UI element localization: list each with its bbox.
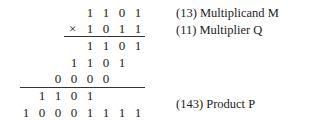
multiplier-digit: 0 bbox=[101, 22, 111, 36]
partial-product-4-digit: 1 bbox=[53, 89, 63, 103]
product-label: (143) Product P bbox=[176, 97, 255, 111]
partial-product-4-digit: 0 bbox=[69, 89, 79, 103]
multiplicand-label: (13) Multiplicand M bbox=[176, 6, 279, 20]
times-symbol: × bbox=[69, 22, 76, 36]
multiplicand-digit: 1 bbox=[133, 6, 143, 20]
product-digit: 0 bbox=[53, 106, 63, 120]
partial-product-2-digit: 1 bbox=[85, 56, 95, 70]
partial-product-3-digit: 0 bbox=[69, 72, 79, 86]
multiplicand-digit: 1 bbox=[85, 6, 95, 20]
multiplier-digit: 1 bbox=[85, 22, 95, 36]
multiplier-digit: 1 bbox=[117, 22, 127, 36]
partial-product-3-digit: 0 bbox=[53, 72, 63, 86]
multiplier-label: (11) Multiplier Q bbox=[176, 23, 262, 37]
partial-product-1-digit: 1 bbox=[101, 39, 111, 53]
partial-product-3-digit: 0 bbox=[85, 72, 95, 86]
product-digit: 0 bbox=[37, 106, 47, 120]
partial-product-4-digit: 1 bbox=[85, 89, 95, 103]
partial-product-2-digit: 1 bbox=[69, 56, 79, 70]
product-digit: 1 bbox=[101, 106, 111, 120]
product-digit: 1 bbox=[85, 106, 95, 120]
partial-product-1-digit: 0 bbox=[117, 39, 127, 53]
product-digit: 1 bbox=[117, 106, 127, 120]
multiplier-digit: 1 bbox=[133, 22, 143, 36]
partial-product-2-digit: 0 bbox=[101, 56, 111, 70]
partial-product-1-digit: 1 bbox=[133, 39, 143, 53]
multiplier-rule bbox=[64, 36, 145, 37]
multiplicand-digit: 0 bbox=[117, 6, 127, 20]
partial-product-2-digit: 1 bbox=[117, 56, 127, 70]
partial-product-1-digit: 1 bbox=[85, 39, 95, 53]
product-digit: 1 bbox=[21, 106, 31, 120]
multiplicand-digit: 1 bbox=[101, 6, 111, 20]
product-digit: 0 bbox=[69, 106, 79, 120]
product-digit: 1 bbox=[133, 106, 143, 120]
partial-product-3-digit: 0 bbox=[101, 72, 111, 86]
partial-product-4-digit: 1 bbox=[37, 89, 47, 103]
